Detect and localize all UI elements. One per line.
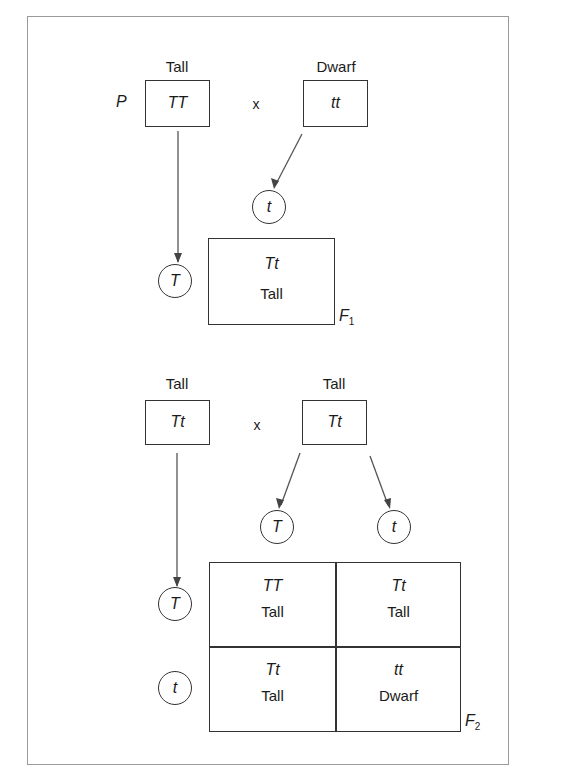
cell-phenotype: Tall [210, 603, 335, 620]
parent1-genotype-box: TT [145, 80, 210, 127]
punnett-square: TT Tall Tt Tall Tt Tall tt Dwarf [209, 562, 461, 732]
gamete-circle-top-t: t [377, 510, 411, 544]
gamete-circle-left-T: T [158, 587, 192, 621]
f1-parent1-genotype: Tt [146, 413, 209, 431]
cell-genotype: tt [336, 661, 461, 679]
cell-genotype: Tt [336, 577, 461, 595]
cell-genotype: TT [210, 577, 335, 595]
punnett-cell-tt: tt Dwarf [336, 647, 461, 731]
cross-symbol: x [253, 96, 260, 112]
punnett-cell-Tt-top: Tt Tall [336, 563, 461, 646]
f1-phenotype: Tall [209, 285, 334, 302]
gamete-circle-t: t [252, 190, 286, 224]
parent1-genotype: TT [146, 94, 209, 112]
parent2-genotype: tt [304, 94, 367, 112]
gamete-circle-top-T: T [260, 510, 294, 544]
cell-phenotype: Dwarf [336, 687, 461, 704]
generation-label-f1: F1 [339, 307, 354, 327]
parent2-phenotype: Dwarf [316, 58, 355, 75]
f1-parent2-phenotype: Tall [323, 375, 346, 392]
generation-label-p: P [116, 93, 127, 111]
f1-parent2-genotype-box: Tt [302, 400, 367, 445]
cell-genotype: Tt [210, 661, 335, 679]
f1-genotype: Tt [209, 255, 334, 273]
f1-cross-symbol: x [254, 417, 261, 433]
parent1-phenotype: Tall [166, 58, 189, 75]
gamete-circle-left-t: t [158, 671, 192, 705]
generation-label-f2: F2 [465, 712, 480, 732]
punnett-cell-TT: TT Tall [210, 563, 335, 646]
f1-offspring-box: Tt Tall [208, 238, 335, 325]
parent2-genotype-box: tt [303, 80, 368, 127]
cell-phenotype: Tall [336, 603, 461, 620]
cell-phenotype: Tall [210, 687, 335, 704]
gamete-circle-T: T [158, 264, 192, 298]
punnett-cell-Tt-bottom: Tt Tall [210, 647, 335, 731]
f1-parent1-genotype-box: Tt [145, 400, 210, 445]
f1-parent2-genotype: Tt [303, 413, 366, 431]
f1-parent1-phenotype: Tall [166, 375, 189, 392]
